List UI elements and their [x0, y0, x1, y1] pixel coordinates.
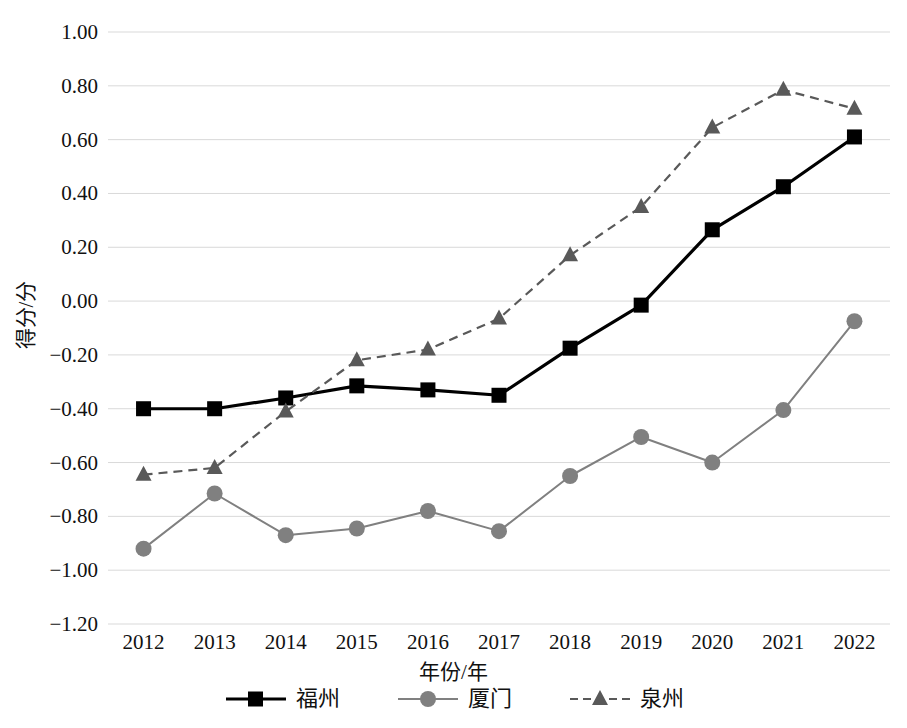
data-point — [634, 298, 649, 313]
plot-area — [0, 0, 907, 728]
data-point — [562, 468, 578, 484]
y-tick-label: 0.20 — [0, 235, 98, 260]
x-axis-title: 年份/年 — [0, 655, 907, 685]
y-tick-label: 0.60 — [0, 127, 98, 152]
legend-label: 泉州 — [640, 688, 684, 710]
x-tick-label: 2019 — [620, 630, 662, 655]
line-chart: 得分/分 1.000.800.600.400.200.00−0.20−0.40−… — [0, 0, 907, 728]
data-point — [704, 119, 720, 134]
series-3 — [136, 81, 863, 481]
x-tick-label: 2020 — [691, 630, 733, 655]
x-tick-label: 2017 — [478, 630, 520, 655]
data-point — [705, 222, 720, 237]
data-point — [420, 341, 436, 356]
y-tick-label: −1.20 — [0, 612, 98, 637]
legend-label: 厦门 — [468, 688, 512, 710]
y-tick-label: 0.80 — [0, 73, 98, 98]
y-tick-label: −0.80 — [0, 504, 98, 529]
data-point — [775, 402, 791, 418]
y-tick-label: 1.00 — [0, 20, 98, 45]
x-tick-label: 2012 — [123, 630, 165, 655]
x-tick-label: 2021 — [762, 630, 804, 655]
data-point — [491, 523, 507, 539]
x-tick-label: 2015 — [336, 630, 378, 655]
data-point — [633, 429, 649, 445]
y-tick-label: −0.40 — [0, 396, 98, 421]
chart-legend: 福州厦门泉州 — [0, 688, 907, 710]
data-point — [136, 541, 152, 557]
legend-swatch-circle-icon — [396, 688, 460, 710]
legend-item-厦门[interactable]: 厦门 — [396, 688, 512, 710]
legend-item-泉州[interactable]: 泉州 — [568, 688, 684, 710]
legend-swatch-square-icon — [224, 688, 288, 710]
data-point — [704, 455, 720, 471]
x-tick-label: 2022 — [833, 630, 875, 655]
legend-item-福州[interactable]: 福州 — [224, 688, 340, 710]
series-1 — [136, 129, 862, 416]
y-tick-label: −1.00 — [0, 558, 98, 583]
data-point — [420, 382, 435, 397]
data-point — [278, 527, 294, 543]
data-point — [491, 310, 507, 325]
data-point — [846, 100, 862, 115]
legend-label: 福州 — [296, 688, 340, 710]
y-tick-label: −0.20 — [0, 342, 98, 367]
data-point — [136, 401, 151, 416]
data-point — [563, 341, 578, 356]
data-point — [562, 246, 578, 261]
series-line — [144, 137, 855, 409]
data-point — [492, 388, 507, 403]
x-tick-label: 2018 — [549, 630, 591, 655]
data-point — [846, 313, 862, 329]
y-tick-label: −0.60 — [0, 450, 98, 475]
x-tick-label: 2016 — [407, 630, 449, 655]
data-point — [349, 378, 364, 393]
data-point — [349, 520, 365, 536]
data-point — [207, 485, 223, 501]
data-point — [775, 81, 791, 96]
data-point — [847, 129, 862, 144]
x-tick-label: 2014 — [265, 630, 307, 655]
y-tick-label: 0.00 — [0, 289, 98, 314]
data-point — [776, 179, 791, 194]
x-tick-label: 2013 — [194, 630, 236, 655]
series-line — [144, 90, 855, 475]
legend-swatch-triangle-icon — [568, 688, 632, 710]
series-2 — [136, 313, 863, 556]
y-tick-label: 0.40 — [0, 181, 98, 206]
data-point — [207, 459, 223, 474]
data-point — [420, 503, 436, 519]
data-point — [207, 401, 222, 416]
